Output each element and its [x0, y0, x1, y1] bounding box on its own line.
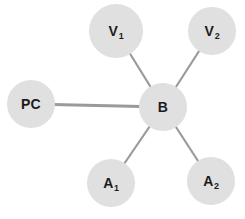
node-v2-label: V2 — [205, 24, 220, 38]
node-a1[interactable]: A1 — [87, 159, 135, 207]
node-v1-label: V1 — [109, 24, 124, 38]
node-b-label: B — [158, 100, 168, 114]
node-a2[interactable]: A2 — [187, 157, 235, 205]
node-a2-label: A2 — [203, 174, 219, 188]
node-label-subscript: 2 — [214, 181, 219, 191]
diagram-canvas: PC V1 V2 B A1 A2 — [0, 0, 245, 219]
node-a1-label: A1 — [103, 176, 119, 190]
node-v2[interactable]: V2 — [188, 7, 236, 55]
node-label-subscript: 2 — [215, 31, 220, 41]
node-label-subscript: 1 — [119, 31, 124, 41]
node-pc-label: PC — [21, 97, 41, 111]
node-b[interactable]: B — [139, 83, 187, 131]
node-label-subscript: 1 — [114, 183, 119, 193]
node-pc[interactable]: PC — [7, 80, 55, 128]
node-v1[interactable]: V1 — [89, 4, 143, 58]
